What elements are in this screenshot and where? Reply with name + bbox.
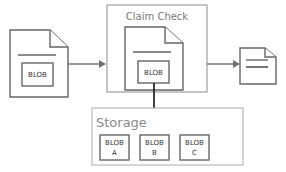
blob-id: A — [112, 149, 117, 157]
storage-blob-b: BLOB B — [140, 135, 169, 160]
arrow-to-claim-check — [68, 60, 106, 68]
blob-id: C — [192, 149, 197, 157]
claim-check-blob-label: BLOB — [144, 69, 163, 77]
source-message-document: BLOB — [10, 30, 68, 97]
claim-check-box: Claim Check BLOB — [107, 5, 207, 92]
blob-label: BLOB — [145, 139, 164, 147]
blob-label: BLOB — [105, 139, 124, 147]
blob-label: BLOB — [185, 139, 204, 147]
storage-blob-a: BLOB A — [100, 135, 129, 160]
blob-id: B — [152, 149, 157, 157]
storage-blob-c: BLOB C — [180, 135, 209, 160]
source-blob-label: BLOB — [28, 71, 47, 79]
claim-check-document: BLOB — [125, 27, 183, 90]
arrow-to-output — [207, 60, 240, 68]
storage-box: Storage BLOB A BLOB B BLOB C — [92, 108, 243, 165]
output-document — [240, 48, 276, 84]
claim-check-diagram: BLOB Claim Check BLOB Storag — [0, 0, 286, 172]
storage-title: Storage — [96, 115, 147, 130]
claim-check-title: Claim Check — [126, 11, 189, 22]
